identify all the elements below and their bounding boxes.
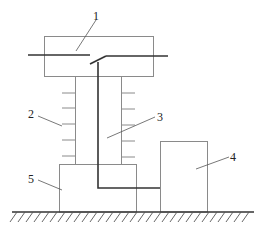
leader-1 [76,20,96,51]
right-sheds [122,93,135,157]
leader-3 [107,117,155,138]
label-3: 3 [157,110,163,124]
left-sheds [62,93,75,156]
label-5: 5 [28,172,34,186]
leader-5 [38,180,62,190]
label-4: 4 [230,150,236,164]
leader-4 [196,157,229,169]
label-2: 2 [28,107,34,121]
side-box [161,142,208,213]
label-1: 1 [93,9,99,23]
leader-2 [38,116,62,126]
diagram-canvas: 1 2 3 4 5 [0,0,265,233]
ground-hatch [10,212,249,222]
